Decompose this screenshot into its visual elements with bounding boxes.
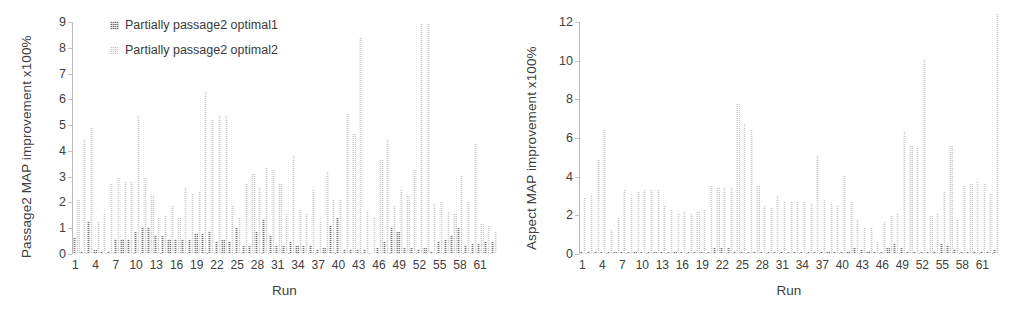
bar-group: [633, 22, 640, 254]
x-tick-label: 16: [676, 258, 689, 272]
y-axis-title-right: Aspect MAP improvement x100%: [524, 46, 539, 250]
bar-group: [873, 22, 880, 254]
bar-group: [396, 22, 403, 254]
bar-group: [680, 22, 687, 254]
bar-group: [753, 22, 760, 254]
bar-group: [282, 22, 289, 254]
bar-group: [780, 22, 787, 254]
x-tick-label: 22: [210, 258, 223, 272]
bar-group: [746, 22, 753, 254]
bar-group: [289, 22, 296, 254]
bar-group: [900, 22, 907, 254]
bar-group: [627, 22, 634, 254]
x-tick-label: 58: [956, 258, 969, 272]
y-tick-label: 4: [48, 145, 66, 157]
legend-item-optimal2-left: Partially passage2 optimal2: [110, 43, 278, 57]
bar-group: [593, 22, 600, 254]
y-tick-label: 3: [48, 171, 66, 183]
x-axis-tick-labels-left: 147101316192225283134374043464952555861: [72, 258, 497, 274]
bar-group: [846, 22, 853, 254]
legend-label-optimal2-left: Partially passage2 optimal2: [125, 43, 278, 57]
legend-label-optimal1-left: Partially passage2 optimal1: [125, 18, 278, 32]
y-tick-label: 2: [555, 209, 573, 221]
bar-group: [73, 22, 80, 254]
x-tick-label: 46: [876, 258, 889, 272]
bar-group: [336, 22, 343, 254]
legend-item-optimal1-left: Partially passage2 optimal1: [110, 18, 278, 32]
plot-area-right: [579, 22, 999, 254]
bar-group: [416, 22, 423, 254]
bar-group: [673, 22, 680, 254]
y-tick-mark: [575, 61, 579, 62]
bar-optimal2: [996, 14, 999, 254]
y-tick-mark: [575, 177, 579, 178]
bar-group: [390, 22, 397, 254]
bar-group: [363, 22, 370, 254]
bar-group: [383, 22, 390, 254]
bar-group: [860, 22, 867, 254]
bar-optimal2: [494, 231, 497, 254]
y-tick-mark: [68, 125, 72, 126]
bar-group: [866, 22, 873, 254]
x-tick-label: 43: [856, 258, 869, 272]
bar-group: [733, 22, 740, 254]
bar-group: [295, 22, 302, 254]
bar-group: [349, 22, 356, 254]
y-tick-label: 12: [555, 16, 573, 28]
bar-group: [443, 22, 450, 254]
bar-group: [620, 22, 627, 254]
y-tick-mark: [575, 138, 579, 139]
y-tick-label: 4: [555, 171, 573, 183]
bar-group: [315, 22, 322, 254]
bar-group: [302, 22, 309, 254]
x-tick-label: 1: [579, 258, 586, 272]
bar-group: [946, 22, 953, 254]
x-tick-label: 34: [796, 258, 809, 272]
bar-group: [329, 22, 336, 254]
bar-group: [430, 22, 437, 254]
bar-group: [640, 22, 647, 254]
bar-group: [660, 22, 667, 254]
legend-left: Partially passage2 optimal1 Partially pa…: [110, 18, 278, 68]
bar-group: [939, 22, 946, 254]
bar-group: [793, 22, 800, 254]
x-tick-label: 61: [473, 258, 486, 272]
y-tick-label: 6: [555, 132, 573, 144]
x-tick-label: 31: [776, 258, 789, 272]
x-tick-label: 4: [599, 258, 606, 272]
bar-group: [450, 22, 457, 254]
x-tick-label: 10: [636, 258, 649, 272]
x-tick-label: 49: [392, 258, 405, 272]
x-tick-label: 25: [736, 258, 749, 272]
y-tick-label: 8: [555, 93, 573, 105]
bar-group: [457, 22, 464, 254]
bar-group: [477, 22, 484, 254]
y-tick-mark: [68, 151, 72, 152]
x-tick-label: 40: [332, 258, 345, 272]
x-tick-label: 34: [291, 258, 304, 272]
bar-group: [766, 22, 773, 254]
bar-group: [820, 22, 827, 254]
y-tick-label: 0: [555, 248, 573, 260]
x-tick-label: 37: [312, 258, 325, 272]
bar-group: [647, 22, 654, 254]
x-tick-label: 40: [836, 258, 849, 272]
bar-group: [813, 22, 820, 254]
x-tick-label: 25: [231, 258, 244, 272]
bar-series-container-right: [580, 22, 999, 254]
bar-group: [437, 22, 444, 254]
bar-group: [600, 22, 607, 254]
y-tick-label: 5: [48, 119, 66, 131]
bar-group: [100, 22, 107, 254]
x-tick-label: 31: [271, 258, 284, 272]
bar-group: [966, 22, 973, 254]
legend-swatch-icon-optimal2-left: [110, 46, 119, 55]
bar-group: [926, 22, 933, 254]
x-tick-label: 49: [896, 258, 909, 272]
bar-group: [800, 22, 807, 254]
bar-group: [484, 22, 491, 254]
x-tick-label: 52: [916, 258, 929, 272]
bar-group: [653, 22, 660, 254]
bar-group: [693, 22, 700, 254]
bar-group: [893, 22, 900, 254]
